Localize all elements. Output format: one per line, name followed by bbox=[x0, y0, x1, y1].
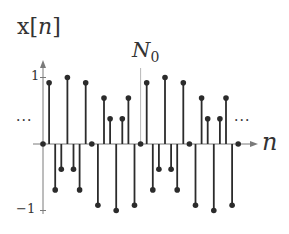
stem-marker bbox=[89, 141, 95, 147]
stem-marker bbox=[71, 166, 77, 172]
ellipsis-right: ··· bbox=[234, 112, 250, 128]
stem-marker bbox=[229, 202, 235, 208]
stem-marker bbox=[83, 80, 89, 86]
stem-marker bbox=[235, 141, 241, 147]
stem-marker bbox=[187, 141, 193, 147]
stem-marker bbox=[144, 80, 150, 86]
stem-marker bbox=[95, 202, 101, 208]
y-tick-label-minus-1: −1 bbox=[16, 201, 35, 216]
stem-marker bbox=[150, 187, 156, 193]
y-axis-label: x[n] bbox=[17, 14, 61, 39]
stem-marker bbox=[113, 208, 119, 214]
stem-marker bbox=[168, 166, 174, 172]
stem-marker bbox=[40, 141, 46, 147]
stem-marker bbox=[65, 75, 71, 81]
stem-marker bbox=[138, 141, 144, 147]
stem-marker bbox=[52, 187, 58, 193]
period-label-n0: N0 bbox=[132, 38, 159, 65]
stem-marker bbox=[217, 116, 223, 122]
ellipsis-left: ··· bbox=[16, 112, 32, 128]
stem-marker bbox=[193, 202, 199, 208]
stem-marker bbox=[59, 166, 65, 172]
stem-marker bbox=[126, 95, 132, 101]
y-axis-arrow-icon bbox=[40, 60, 46, 68]
stem-marker bbox=[46, 80, 52, 86]
stem-marker bbox=[199, 95, 205, 101]
stem-marker bbox=[77, 187, 83, 193]
stem-marker bbox=[101, 95, 107, 101]
stem-marker bbox=[205, 116, 211, 122]
stem-marker bbox=[132, 202, 138, 208]
y-tick-label-1: 1 bbox=[31, 68, 39, 83]
stem-marker bbox=[223, 95, 229, 101]
stem-marker bbox=[156, 166, 162, 172]
stem-marker bbox=[162, 75, 168, 81]
stem-marker bbox=[211, 208, 217, 214]
stem-marker bbox=[107, 116, 113, 122]
stem-marker bbox=[120, 116, 126, 122]
stem-marker bbox=[181, 80, 187, 86]
x-axis-label: n bbox=[262, 128, 277, 156]
stem-marker bbox=[174, 187, 180, 193]
x-axis-arrow-icon bbox=[250, 141, 258, 147]
